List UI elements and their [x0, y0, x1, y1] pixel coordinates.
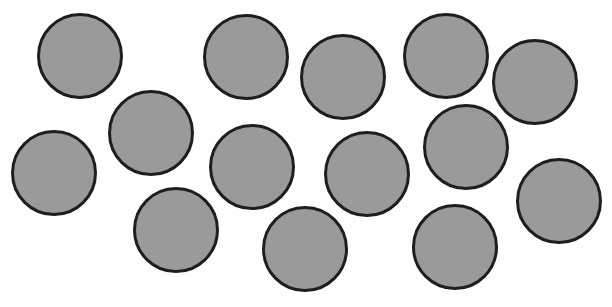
gray-circle	[209, 124, 295, 210]
gray-circle	[516, 158, 602, 244]
gray-circle	[108, 90, 194, 176]
gray-circle	[11, 130, 97, 216]
gray-circle	[324, 131, 410, 217]
gray-circle	[423, 104, 509, 190]
gray-circle	[133, 187, 219, 273]
gray-circle	[412, 204, 498, 290]
gray-circle	[262, 206, 348, 292]
gray-circle	[203, 14, 289, 100]
gray-circle	[492, 39, 578, 125]
gray-circle	[37, 13, 123, 99]
gray-circle	[403, 13, 489, 99]
gray-circle	[300, 34, 386, 120]
